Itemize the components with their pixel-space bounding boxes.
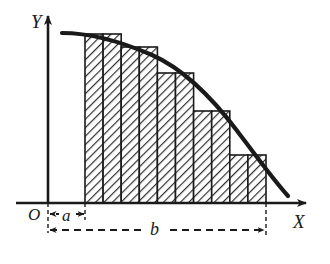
inscribed-rectangles-group <box>85 34 266 203</box>
origin-label: O <box>28 206 40 223</box>
bar-2 <box>103 34 121 203</box>
bar-1 <box>85 34 103 203</box>
figure-container: Y X O a b <box>0 0 330 264</box>
bar-6 <box>176 73 194 203</box>
y-axis-label: Y <box>31 12 42 31</box>
bar-8 <box>212 111 230 203</box>
figure-canvas <box>0 0 330 264</box>
bar-7 <box>194 111 212 203</box>
bar-9 <box>230 155 248 203</box>
dimension-a-label: a <box>62 207 71 224</box>
bar-3 <box>121 47 139 203</box>
bar-5 <box>157 73 175 203</box>
x-axis-label: X <box>293 212 305 231</box>
bar-4 <box>139 47 157 203</box>
dimension-b-label: b <box>150 220 159 238</box>
